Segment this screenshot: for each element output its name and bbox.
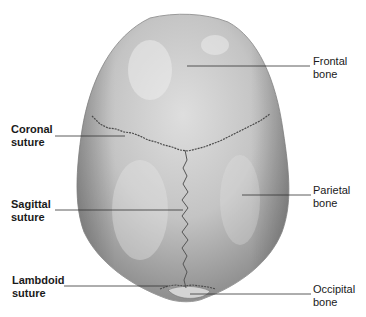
- label-line: suture: [12, 287, 65, 300]
- skull-superior-view-illustration: [0, 0, 366, 317]
- label-line: Frontal: [313, 55, 347, 68]
- label-line: Lambdoid: [12, 274, 65, 287]
- label-line: Occipital: [313, 283, 355, 296]
- label-frontal-bone: Frontal bone: [313, 55, 347, 81]
- label-line: suture: [11, 211, 51, 224]
- label-parietal-bone: Parietal bone: [313, 184, 350, 210]
- label-line: Parietal: [313, 184, 350, 197]
- label-line: bone: [313, 68, 347, 81]
- label-line: bone: [313, 296, 355, 309]
- label-line: Coronal: [11, 123, 53, 136]
- label-coronal-suture: Coronal suture: [11, 123, 53, 149]
- label-occipital-bone: Occipital bone: [313, 283, 355, 309]
- label-lambdoid-suture: Lambdoid suture: [12, 274, 65, 300]
- label-line: bone: [313, 197, 350, 210]
- label-sagittal-suture: Sagittal suture: [11, 198, 51, 224]
- label-line: Sagittal: [11, 198, 51, 211]
- label-line: suture: [11, 136, 53, 149]
